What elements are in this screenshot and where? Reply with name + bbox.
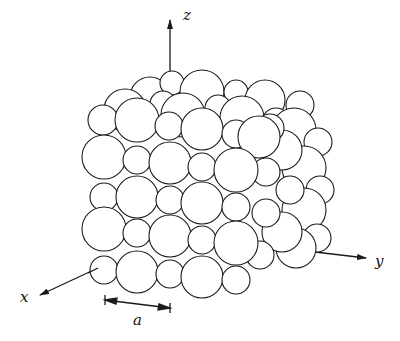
y-axis bbox=[315, 252, 366, 258]
y-axis-label: y bbox=[375, 254, 383, 269]
scale-bar-label: a bbox=[133, 313, 142, 328]
z-axis-label: z bbox=[183, 8, 191, 23]
sphere-packing bbox=[82, 70, 334, 298]
x-axis-label: x bbox=[20, 290, 28, 305]
crystal-diagram: z y x a bbox=[0, 0, 400, 341]
diagram-svg bbox=[0, 0, 400, 341]
